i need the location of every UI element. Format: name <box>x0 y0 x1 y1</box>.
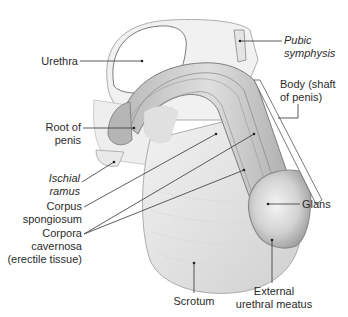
label-spongiosum-line2: spongiosum <box>10 213 82 226</box>
label-pubic-symphysis-line2: symphysis <box>284 47 335 60</box>
label-urethra-text: Urethra <box>41 55 78 67</box>
label-meatus-line2: urethral meatus <box>226 298 322 311</box>
label-ischial-line2: ramus <box>20 185 80 198</box>
label-ischial-ramus: Ischial ramus <box>20 172 80 198</box>
label-ischial-line1: Ischial <box>20 172 80 185</box>
label-scrotum-text: Scrotum <box>174 295 215 307</box>
label-corpora-cavernosa: Corpora cavernosa (erectile tissue) <box>0 227 82 266</box>
label-pubic-symphysis-line1: Pubic <box>284 34 335 47</box>
label-urethra: Urethra <box>20 55 78 68</box>
label-meatus-line1: External <box>226 285 322 298</box>
label-glans-text: Glans <box>302 198 331 210</box>
label-body-line1: Body (shaft <box>280 78 336 91</box>
label-spongiosum-line1: Corpus <box>10 200 82 213</box>
label-cavernosa-line1: Corpora <box>0 227 82 240</box>
label-glans: Glans <box>302 198 331 211</box>
label-root-of-penis: Root of penis <box>20 121 81 147</box>
label-cavernosa-line3: (erectile tissue) <box>0 253 82 266</box>
label-cavernosa-line2: cavernosa <box>0 240 82 253</box>
label-root-line2: penis <box>20 134 81 147</box>
label-pubic-symphysis: Pubic symphysis <box>284 34 335 60</box>
label-root-line1: Root of <box>20 121 81 134</box>
label-corpus-spongiosum: Corpus spongiosum <box>10 200 82 226</box>
label-external-urethral-meatus: External urethral meatus <box>226 285 322 311</box>
anatomy-diagram: Urethra Pubic symphysis Body (shaft of p… <box>0 0 348 317</box>
label-body-shaft: Body (shaft of penis) <box>280 78 336 104</box>
label-scrotum: Scrotum <box>168 295 220 308</box>
label-body-line2: of penis) <box>280 91 336 104</box>
